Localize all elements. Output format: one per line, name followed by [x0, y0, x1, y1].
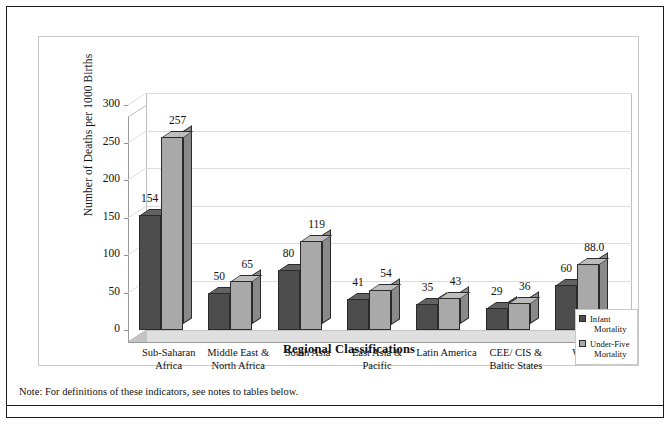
bar-value-label: 65	[227, 258, 267, 270]
bar-under-five	[508, 303, 530, 330]
chart-legend: InfantMortalityUnder-FiveMortality	[575, 309, 638, 365]
legend-item: InfantMortality	[579, 314, 634, 334]
bar-infant	[486, 308, 508, 330]
bar-value-label: 119	[297, 218, 337, 230]
bar-under-five	[369, 290, 391, 331]
gridline	[146, 131, 632, 132]
bar-side	[183, 125, 192, 324]
bar-face	[278, 270, 300, 330]
bar-under-five	[300, 241, 322, 330]
y-tick-label: 300	[86, 97, 120, 109]
bar-value-label: 43	[435, 275, 475, 287]
legend-swatch-icon	[579, 340, 586, 347]
bar-face	[369, 290, 391, 331]
bar-infant	[347, 299, 369, 330]
bar-infant	[278, 270, 300, 330]
bar-infant	[208, 293, 230, 331]
gridline-depth	[128, 168, 148, 182]
bar-infant	[139, 215, 161, 331]
bar-under-five	[230, 281, 252, 330]
y-tick-label: 0	[86, 322, 120, 334]
y-tick-mark	[124, 180, 128, 181]
bar-under-five	[161, 137, 183, 330]
y-tick-label: 50	[86, 285, 120, 297]
gridline	[146, 206, 632, 207]
bar-value-label: 88.0	[574, 241, 614, 253]
category-label-line: Baltic States	[472, 360, 560, 373]
bar-side	[322, 229, 331, 324]
bar-value-label: 257	[158, 114, 198, 126]
gridline	[146, 243, 632, 244]
bar-face	[438, 298, 460, 330]
y-tick-mark	[124, 255, 128, 256]
bar-face	[508, 303, 530, 330]
y-tick-mark	[124, 105, 128, 106]
plot-area: 0501001502002503001542575065801194154354…	[128, 105, 614, 330]
gridline	[146, 168, 632, 169]
gridline-depth	[128, 93, 148, 107]
y-tick-mark	[124, 293, 128, 294]
category-label-line: North Africa	[194, 360, 282, 373]
bar-value-label: 36	[505, 280, 545, 292]
bar-face	[208, 293, 230, 331]
y-axis-line	[128, 117, 129, 342]
y-tick-label: 100	[86, 247, 120, 259]
footnote-divider	[7, 405, 663, 406]
y-tick-label: 250	[86, 135, 120, 147]
legend-item: Under-FiveMortality	[579, 339, 634, 359]
x-axis-title: Regional Classifications	[219, 342, 479, 357]
footnote-text: Note: For definitions of these indicator…	[19, 386, 298, 397]
bar-face	[555, 285, 577, 330]
gridline	[146, 93, 632, 94]
legend-label-line: Mortality	[594, 324, 634, 334]
bar-face	[416, 304, 438, 330]
gridline-depth	[128, 131, 148, 145]
page-frame: Number of Deaths per 1000 Births 0501001…	[6, 6, 664, 418]
bar-infant	[555, 285, 577, 330]
y-tick-label: 150	[86, 210, 120, 222]
bar-face	[347, 299, 369, 330]
chart-container: Number of Deaths per 1000 Births 0501001…	[38, 36, 639, 366]
bar-value-label: 54	[366, 267, 406, 279]
y-tick-label: 200	[86, 172, 120, 184]
bar-face	[230, 281, 252, 330]
bar-under-five	[438, 298, 460, 330]
bar-face	[161, 137, 183, 330]
legend-label-line: Under-Five	[590, 339, 634, 349]
legend-swatch-icon	[579, 315, 586, 322]
bar-face	[300, 241, 322, 330]
bar-face	[486, 308, 508, 330]
y-tick-mark	[124, 143, 128, 144]
legend-label-line: Mortality	[594, 349, 634, 359]
bar-face	[139, 215, 161, 331]
legend-label-line: Infant	[590, 314, 634, 324]
y-tick-mark	[124, 330, 128, 331]
y-tick-mark	[124, 218, 128, 219]
category-label-line: Pacific	[333, 360, 421, 373]
bar-infant	[416, 304, 438, 330]
